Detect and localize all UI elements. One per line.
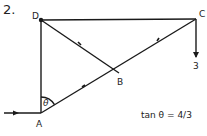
problem-number: 2.: [3, 2, 15, 17]
member-DB: [41, 20, 119, 73]
member-DC: [41, 19, 196, 20]
joint-D-dot: [39, 18, 43, 22]
force-arrowhead-A: [13, 111, 19, 116]
member-BC-arrow-mark: [157, 38, 159, 41]
member-DB-arrow-mark: [78, 42, 81, 45]
point-label-B: B: [117, 77, 123, 87]
load-label: 3: [193, 61, 199, 71]
point-label-D: D: [32, 11, 39, 21]
theta-label: θ: [43, 98, 49, 108]
equation-text: tan θ = 4/3: [141, 110, 192, 120]
point-label-C: C: [199, 9, 205, 19]
truss-diagram: 2. 3 θ D C A B tan θ = 4/3: [0, 0, 207, 136]
member-AC: [41, 19, 196, 113]
point-label-A: A: [36, 119, 43, 129]
